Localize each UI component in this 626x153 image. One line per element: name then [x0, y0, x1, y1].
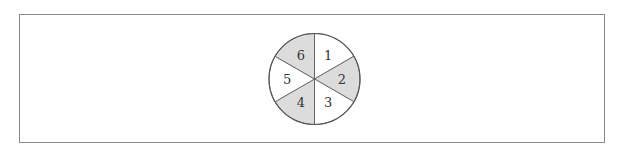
sector-label: 4 — [297, 95, 305, 110]
sector-label: 5 — [283, 72, 291, 87]
sector-label: 3 — [324, 95, 332, 110]
sector-label: 6 — [297, 48, 305, 63]
spinner-diagram: 123456 — [0, 0, 626, 153]
sector-label: 2 — [338, 72, 346, 87]
sector-label: 1 — [324, 48, 332, 63]
